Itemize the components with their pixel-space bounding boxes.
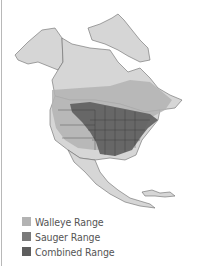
- map-legend: Walleye Range Sauger Range Combined Rang…: [22, 214, 115, 259]
- walleye-swatch: [22, 217, 31, 226]
- combined-swatch: [22, 247, 31, 256]
- sauger-swatch: [22, 232, 31, 241]
- legend-label: Sauger Range: [35, 231, 100, 243]
- legend-item-sauger: Sauger Range: [22, 229, 115, 244]
- legend-item-walleye: Walleye Range: [22, 214, 115, 229]
- caribbean-islands: [142, 190, 175, 197]
- legend-item-combined: Combined Range: [22, 244, 115, 259]
- alaska-region: [15, 28, 63, 70]
- legend-label: Combined Range: [35, 246, 115, 258]
- north-america-map: [0, 0, 201, 210]
- legend-label: Walleye Range: [35, 216, 104, 228]
- mexico-region: [68, 150, 155, 208]
